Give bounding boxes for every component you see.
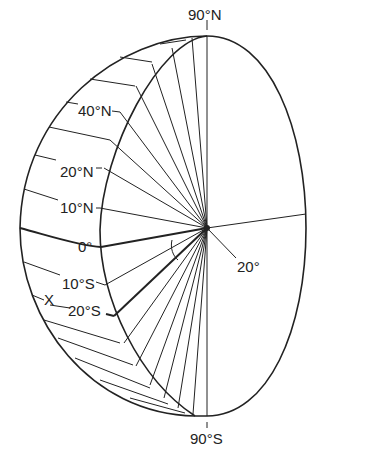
- globe-outline-left: [20, 36, 207, 416]
- label-equator: 0°: [78, 238, 92, 255]
- label-point-x: X: [44, 291, 54, 308]
- label-10n: 10°N: [60, 199, 94, 216]
- label-south-pole: 90°S: [190, 430, 223, 447]
- globe-diagram: 90°N 90°S 40°N 20°N 10°N 0° 10°S 20°S X …: [0, 0, 365, 462]
- label-20s: 20°S: [68, 302, 101, 319]
- label-20n: 20°N: [60, 163, 94, 180]
- label-40n: 40°N: [78, 102, 112, 119]
- label-10s: 10°S: [62, 275, 95, 292]
- label-angle: 20°: [237, 258, 260, 275]
- label-north-pole: 90°N: [188, 6, 222, 23]
